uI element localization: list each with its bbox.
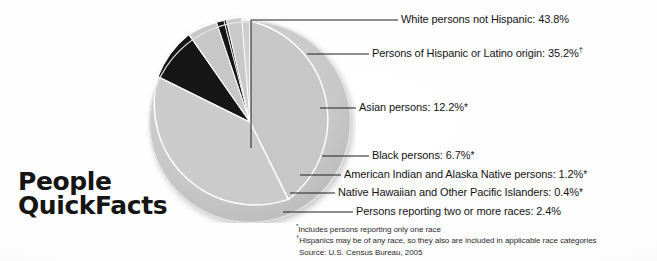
callout-white-not-hispanic: White persons not Hispanic: 43.8% (401, 13, 569, 25)
callout-label-american-indian-alaska-native: American Indian and Alaska Native person… (344, 168, 583, 180)
footnote-source: Source: U.S. Census Bureau, 2005 (296, 247, 597, 258)
callout-label-hispanic-latino: Persons of Hispanic or Latino origin: 35… (372, 47, 579, 59)
callout-label-black: Black persons: 6.7% (372, 149, 470, 161)
callout-label-two-or-more-races: Persons reporting two or more races: 2.4… (356, 205, 561, 217)
callout-american-indian-alaska-native: American Indian and Alaska Native person… (344, 168, 587, 180)
pie-chart-svg (146, 13, 356, 223)
footnote-2-text: Hispanics may be of any race, so they al… (299, 236, 596, 245)
callout-marker-black: * (470, 150, 474, 161)
people-quickfacts-infographic: White persons not Hispanic: 43.8% Person… (0, 0, 657, 261)
pie-chart (146, 13, 356, 223)
footnote-2: †Hispanics may be of any race, so they a… (296, 235, 597, 246)
callout-marker-hispanic-latino: † (579, 45, 583, 54)
callout-label-native-hawaiian-pacific-islander: Native Hawaiian and Other Pacific Island… (338, 186, 579, 198)
callout-asian: Asian persons: 12.2%* (359, 101, 468, 113)
footnote-1: *Includes persons reporting only one rac… (296, 224, 597, 235)
callout-label-white-not-hispanic: White persons not Hispanic: 43.8% (401, 13, 569, 25)
pie-slices-group (149, 17, 351, 223)
callout-black: Black persons: 6.7%* (372, 149, 474, 161)
callout-marker-american-indian-alaska-native: * (583, 169, 587, 180)
callout-label-asian: Asian persons: 12.2% (359, 101, 464, 113)
footnotes: *Includes persons reporting only one rac… (296, 224, 597, 258)
callout-two-or-more-races: Persons reporting two or more races: 2.4… (356, 205, 561, 217)
callout-native-hawaiian-pacific-islander: Native Hawaiian and Other Pacific Island… (338, 186, 583, 198)
footnote-1-text: Includes persons reporting only one race (298, 225, 441, 234)
callout-hispanic-latino: Persons of Hispanic or Latino origin: 35… (372, 47, 583, 59)
page-title: People QuickFacts (18, 170, 167, 218)
callout-marker-asian: * (464, 102, 468, 113)
page-title-line-2: QuickFacts (18, 194, 167, 218)
callout-marker-native-hawaiian-pacific-islander: * (579, 187, 583, 198)
